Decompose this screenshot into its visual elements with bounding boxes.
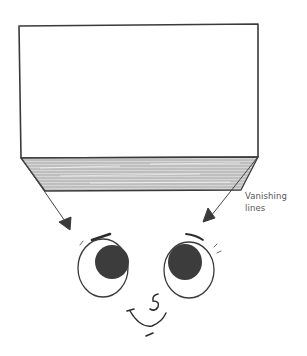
right-eyebrow: [186, 234, 203, 240]
arrowhead-left-icon: [59, 217, 71, 230]
label-line-2: lines: [245, 202, 287, 214]
perspective-drawing: [0, 0, 307, 356]
nose: [150, 294, 158, 310]
box-front-face: [19, 24, 258, 158]
label-line-1: Vanishing: [245, 190, 287, 202]
right-eye: [164, 242, 214, 298]
mouth: [130, 311, 166, 326]
left-eye: [78, 239, 129, 297]
vanishing-lines-label: Vanishing lines: [245, 190, 287, 214]
box-bottom-face: [21, 157, 258, 191]
cartoon-face: [78, 234, 221, 336]
chin: [146, 333, 153, 336]
arrowhead-right-icon: [203, 208, 215, 222]
